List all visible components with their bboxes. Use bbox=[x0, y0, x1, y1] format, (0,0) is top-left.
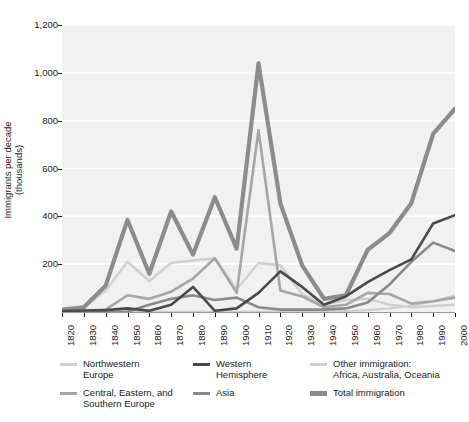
y-tick-label-800: 800 bbox=[22, 116, 58, 126]
x-tick-label-1940: 1940 bbox=[328, 325, 338, 346]
legend-swatch-icon bbox=[60, 363, 77, 366]
legend-swatch-icon bbox=[310, 363, 327, 366]
x-tick-mark-1820 bbox=[62, 313, 63, 317]
x-tick-mark-1980 bbox=[411, 313, 412, 317]
legend-label: Western Hemisphere bbox=[216, 358, 267, 380]
y-tick-label-200: 200 bbox=[22, 259, 58, 269]
x-tick-label-1830: 1830 bbox=[88, 325, 98, 346]
x-tick-label-1920: 1920 bbox=[284, 325, 294, 346]
x-tick-mark-1920 bbox=[280, 313, 281, 317]
legend-item-other-immigration-africa-australia-oceania[interactable]: Other immigration: Africa, Australia, Oc… bbox=[310, 358, 440, 380]
legend-label: Central, Eastern, and Southern Europe bbox=[83, 387, 173, 409]
x-tick-label-1850: 1850 bbox=[132, 325, 142, 346]
legend-item-total-immigration[interactable]: Total immigration bbox=[310, 387, 405, 398]
x-tick-mark-2000 bbox=[455, 313, 456, 317]
x-tick-label-1820: 1820 bbox=[66, 325, 76, 346]
x-tick-label-1910: 1910 bbox=[263, 325, 273, 346]
x-tick-mark-1950 bbox=[346, 313, 347, 317]
x-tick-label-1950: 1950 bbox=[350, 325, 360, 346]
x-tick-label-2000: 2000 bbox=[459, 325, 469, 346]
x-tick-label-1960: 1960 bbox=[372, 325, 382, 346]
x-tick-label-1870: 1870 bbox=[175, 325, 185, 346]
chart-legend: Northwestern EuropeWestern HemisphereOth… bbox=[60, 358, 460, 416]
x-tick-label-1990: 1990 bbox=[437, 325, 447, 346]
x-tick-mark-1910 bbox=[259, 313, 260, 317]
legend-label: Other immigration: Africa, Australia, Oc… bbox=[333, 358, 440, 380]
x-tick-label-1880: 1880 bbox=[197, 325, 207, 346]
legend-item-northwestern-europe[interactable]: Northwestern Europe bbox=[60, 358, 140, 380]
plot-svg bbox=[62, 25, 455, 312]
legend-swatch-icon bbox=[193, 392, 210, 395]
x-tick-mark-1940 bbox=[324, 313, 325, 317]
x-tick-label-1840: 1840 bbox=[110, 325, 120, 346]
legend-item-central-eastern-and-southern-europe[interactable]: Central, Eastern, and Southern Europe bbox=[60, 387, 173, 409]
legend-swatch-icon bbox=[60, 392, 77, 395]
y-tick-label-1200: 1,200 bbox=[22, 20, 58, 30]
x-tick-mark-1960 bbox=[368, 313, 369, 317]
legend-item-asia[interactable]: Asia bbox=[193, 387, 234, 398]
x-tick-label-1980: 1980 bbox=[415, 325, 425, 346]
x-tick-mark-1880 bbox=[193, 313, 194, 317]
series-line-asia bbox=[62, 243, 455, 312]
y-tick-label-600: 600 bbox=[22, 164, 58, 174]
x-tick-mark-1830 bbox=[84, 313, 85, 317]
x-tick-mark-1930 bbox=[302, 313, 303, 317]
legend-swatch-icon bbox=[193, 363, 210, 366]
x-tick-label-1930: 1930 bbox=[306, 325, 316, 346]
x-tick-label-1860: 1860 bbox=[153, 325, 163, 346]
x-tick-label-1970: 1970 bbox=[394, 325, 404, 346]
x-tick-label-1900: 1900 bbox=[241, 325, 251, 346]
plot-area bbox=[62, 25, 455, 312]
legend-swatch-icon bbox=[310, 391, 327, 396]
y-tick-label-1000: 1,000 bbox=[22, 68, 58, 78]
x-tick-mark-1990 bbox=[433, 313, 434, 317]
immigration-line-chart: Immigrants per decade (thousands) 200400… bbox=[0, 0, 469, 422]
legend-item-western-hemisphere[interactable]: Western Hemisphere bbox=[193, 358, 267, 380]
x-tick-mark-1850 bbox=[128, 313, 129, 317]
x-tick-mark-1860 bbox=[149, 313, 150, 317]
series-line-total-immigration bbox=[62, 63, 455, 309]
y-axis-tick-labels: 2004006008001,0001,200 bbox=[20, 0, 58, 330]
x-tick-mark-1900 bbox=[237, 313, 238, 317]
legend-label: Asia bbox=[216, 387, 234, 398]
y-tick-label-400: 400 bbox=[22, 211, 58, 221]
legend-label: Northwestern Europe bbox=[83, 358, 140, 380]
x-tick-label-1890: 1890 bbox=[219, 325, 229, 346]
x-tick-mark-1870 bbox=[171, 313, 172, 317]
y-axis-title-line1: Immigrants per decade bbox=[2, 121, 13, 218]
legend-label: Total immigration bbox=[333, 387, 405, 398]
x-tick-mark-1970 bbox=[390, 313, 391, 317]
x-tick-mark-1840 bbox=[106, 313, 107, 317]
x-tick-mark-1890 bbox=[215, 313, 216, 317]
